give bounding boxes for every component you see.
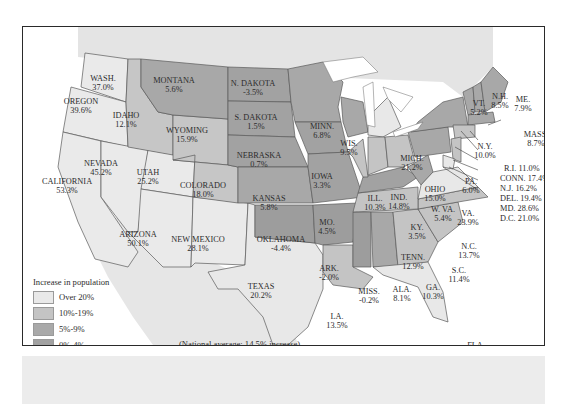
page-header-fade	[380, 0, 540, 8]
population-change-map: WASH.37.0% OREGON39.6% CALIFORNIA53.3% N…	[22, 26, 545, 346]
label-fl: FLA.46.1%	[465, 341, 486, 346]
label-nc: N.C.13.7%	[458, 242, 479, 260]
legend-swatch	[33, 339, 54, 347]
caption-band	[22, 356, 545, 404]
label-tn: TENN.12.9%	[401, 253, 425, 271]
legend-swatch	[33, 291, 54, 304]
legend-item: 5%-9%	[33, 321, 112, 337]
label-ny: N.Y.10.0%	[474, 142, 495, 160]
label-wi: WIS.9.5%	[340, 139, 357, 157]
legend-swatch	[33, 323, 54, 336]
label-ut: UTAH25.2%	[137, 168, 159, 186]
label-dc: D.C. 21.0%	[500, 214, 539, 223]
label-de: DEL. 19.4%	[500, 194, 542, 203]
national-average-note: (National average: 14.5% increase)	[179, 339, 300, 346]
legend-increase-heading: Increase in population	[33, 277, 112, 287]
label-pa: PA.6.0%	[462, 177, 479, 195]
label-wv: W. VA.5.4%	[431, 205, 455, 223]
label-oh: OHIO15.0%	[424, 185, 445, 203]
label-va: VA.23.9%	[457, 209, 478, 227]
label-me: ME.7.9%	[514, 95, 531, 113]
label-sc: S.C.11.4%	[448, 266, 469, 284]
label-ct: CONN. 17.4%	[500, 174, 545, 183]
state-ms	[353, 212, 371, 267]
label-ri: R.I. 11.0%	[504, 164, 540, 173]
label-wy: WYOMING15.9%	[166, 126, 208, 144]
label-il: ILL.10.3%	[364, 194, 385, 212]
label-la: LA.13.5%	[326, 312, 347, 330]
state-nm	[191, 197, 248, 267]
label-al: ALA.8.1%	[392, 285, 411, 303]
map-legend: Increase in population Over 20% 10%-19% …	[33, 277, 112, 346]
label-ca: CALIFORNIA53.3%	[42, 177, 92, 195]
label-nh: N.H.8.5%	[491, 92, 508, 110]
label-ga: GA.10.3%	[422, 283, 443, 301]
label-ks: KANSAS5.8%	[252, 194, 285, 212]
label-ne: NEBRASKA0.7%	[237, 151, 282, 169]
label-or: OREGON39.6%	[64, 97, 99, 115]
label-ia: IOWA3.3%	[311, 172, 333, 190]
label-wa: WASH.37.0%	[90, 74, 116, 92]
state-ct	[453, 125, 475, 139]
label-co: COLORADO18.0%	[180, 181, 226, 199]
label-ar: ARK.-2.0%	[319, 264, 339, 282]
label-ms: MISS.-0.2%	[358, 287, 379, 305]
label-nm: NEW MEXICO28.1%	[171, 235, 225, 253]
legend-item: 10%-19%	[33, 305, 112, 321]
label-nd: N. DAKOTA-3.5%	[231, 79, 276, 97]
label-mi: MICH.21.2%	[400, 154, 424, 172]
legend-swatch	[33, 307, 54, 320]
label-nj: N.J. 16.2%	[500, 184, 537, 193]
label-ky: KY.3.5%	[408, 223, 425, 241]
label-ma: MASS.8.7%	[524, 130, 545, 148]
label-in: IND.14.8%	[388, 193, 409, 211]
label-id: IDAHO12.1%	[113, 111, 140, 129]
label-mo: MO.4.5%	[318, 218, 335, 236]
label-tx: TEXAS20.2%	[248, 282, 275, 300]
label-vt: VT.5.2%	[470, 99, 487, 117]
label-nv: NEVADA45.2%	[84, 159, 118, 177]
label-az: ARIZONA50.1%	[119, 230, 156, 248]
label-mt: MONTANA5.6%	[153, 76, 195, 94]
legend-item: 0%-4%	[33, 337, 112, 346]
label-mn: MINN.6.8%	[310, 122, 334, 140]
label-ok: OKLAHOMA-4.4%	[257, 235, 305, 253]
label-sd: S. DAKOTA1.5%	[234, 113, 277, 131]
label-md: MD. 28.6%	[500, 204, 539, 213]
legend-item: Over 20%	[33, 289, 112, 305]
